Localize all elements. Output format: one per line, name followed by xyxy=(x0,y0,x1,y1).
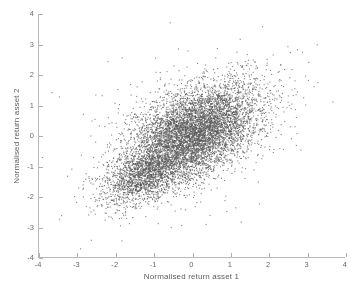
x-tick-mark xyxy=(346,253,347,257)
y-tick-mark xyxy=(39,14,43,15)
x-tick-mark xyxy=(154,253,155,257)
x-tick-label: 2 xyxy=(258,260,278,269)
scatter-points-canvas xyxy=(39,14,346,258)
x-tick-mark xyxy=(39,253,40,257)
x-tick-label: -2 xyxy=(105,260,125,269)
x-tick-mark xyxy=(193,253,194,257)
x-tick-label: 1 xyxy=(220,260,240,269)
y-axis-title: Normalised return asset 2 xyxy=(12,14,24,258)
y-tick-mark xyxy=(39,258,43,259)
x-tick-mark xyxy=(269,253,270,257)
x-tick-label: 0 xyxy=(182,260,202,269)
y-tick-mark xyxy=(39,75,43,76)
x-tick-mark xyxy=(308,253,309,257)
y-tick-mark xyxy=(39,197,43,198)
y-tick-mark xyxy=(39,45,43,46)
scatter-plot-figure: -4-3-2-101234 -4-3-2-101234 Normalised r… xyxy=(0,0,358,297)
x-tick-label: -1 xyxy=(143,260,163,269)
plot-area xyxy=(38,14,345,258)
y-tick-mark xyxy=(39,136,43,137)
y-tick-mark xyxy=(39,167,43,168)
x-tick-mark xyxy=(231,253,232,257)
x-tick-label: -3 xyxy=(66,260,86,269)
x-tick-label: 3 xyxy=(297,260,317,269)
x-tick-label: 4 xyxy=(335,260,355,269)
y-tick-mark xyxy=(39,106,43,107)
y-tick-mark xyxy=(39,228,43,229)
x-tick-mark xyxy=(116,253,117,257)
x-axis-title: Normalised return asset 1 xyxy=(38,272,345,281)
x-tick-mark xyxy=(77,253,78,257)
